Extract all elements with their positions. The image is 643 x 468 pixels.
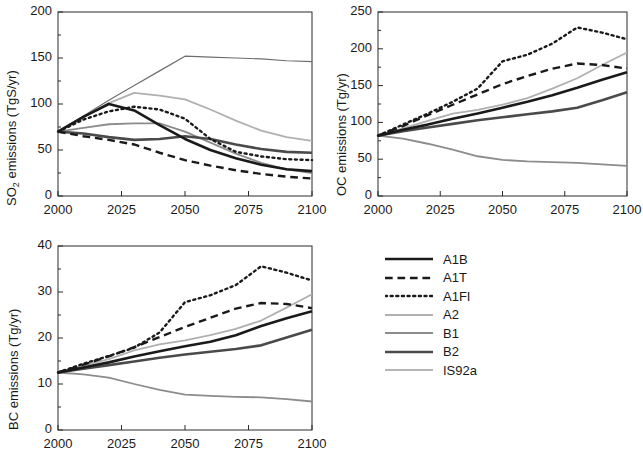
oc-ytick-label: 100 [334, 113, 372, 128]
oc-ytick-label: 0 [334, 187, 372, 202]
so2-xtick-label: 2050 [155, 202, 215, 217]
legend-item-a1fi: A1FI [385, 287, 470, 305]
legend-label-b2: B2 [443, 344, 459, 359]
oc-ytick-label: 200 [334, 40, 372, 55]
oc-xtick-label: 2000 [348, 202, 408, 217]
panel-so2-emissions: SO2 emissions (TgS/yr) 05010015020020002… [0, 0, 330, 234]
bc-xtick-label: 2100 [282, 436, 342, 451]
so2-y-axis-title: SO2 emissions (TgS/yr) [4, 70, 19, 206]
bc-xtick-label: 2000 [28, 436, 88, 451]
oc-xtick-label: 2075 [535, 202, 595, 217]
bc-xtick-label: 2050 [155, 436, 215, 451]
so2-ytick-label: 200 [14, 3, 52, 18]
legend-item-b1: B1 [385, 324, 459, 342]
legend-swatch-b2-icon [385, 345, 433, 359]
legend-label-a1fi: A1FI [443, 289, 470, 304]
legend-swatch-a1fi-icon [385, 289, 433, 303]
so2-xtick-label: 2025 [92, 202, 152, 217]
legend-swatch-a1b-icon [385, 252, 433, 266]
legend-item-is92a: IS92a [385, 361, 477, 379]
legend-label-b1: B1 [443, 326, 459, 341]
bc-y-axis-title: BC emissions (Tg/yr) [6, 309, 21, 430]
so2-ytick-label: 150 [14, 49, 52, 64]
oc-plot-area [330, 0, 643, 234]
bc-ytick-label: 10 [14, 375, 52, 390]
legend-item-a2: A2 [385, 306, 459, 324]
so2-y-axis-title-text: SO2 emissions (TgS/yr) [4, 70, 19, 206]
legend-item-a1b: A1B [385, 250, 468, 268]
oc-xtick-label: 2025 [410, 202, 470, 217]
legend-label-is92a: IS92a [443, 363, 477, 378]
oc-y-axis-title: OC emissions (Tg/yr) [334, 73, 349, 196]
oc-xtick-label: 2100 [597, 202, 643, 217]
bc-xtick-label: 2025 [92, 436, 152, 451]
so2-xtick-label: 2000 [28, 202, 88, 217]
oc-ytick-label: 150 [334, 77, 372, 92]
so2-ytick-label: 0 [14, 187, 52, 202]
legend-swatch-b1-icon [385, 326, 433, 340]
bc-ytick-label: 40 [14, 237, 52, 252]
bc-ytick-label: 0 [14, 421, 52, 436]
legend-swatch-is92a-icon [385, 363, 433, 377]
legend-swatch-a1t-icon [385, 271, 433, 285]
panel-bc-emissions: BC emissions (Tg/yr) 0102030402000202520… [0, 234, 330, 468]
bc-y-axis-title-text: BC emissions (Tg/yr) [6, 309, 21, 430]
oc-ytick-label: 50 [334, 150, 372, 165]
panel-oc-emissions: OC emissions (Tg/yr) 0501001502002502000… [330, 0, 643, 234]
bc-xtick-label: 2075 [219, 436, 279, 451]
so2-ytick-label: 50 [14, 141, 52, 156]
legend-label-a1b: A1B [443, 252, 468, 267]
bc-ytick-label: 30 [14, 283, 52, 298]
oc-xtick-label: 2050 [473, 202, 533, 217]
legend-label-a1t: A1T [443, 270, 467, 285]
legend: A1BA1TA1FIA2B1B2IS92a [385, 250, 643, 390]
so2-xtick-label: 2075 [219, 202, 279, 217]
oc-y-axis-title-text: OC emissions (Tg/yr) [334, 73, 349, 196]
so2-ytick-label: 100 [14, 95, 52, 110]
emissions-scenarios-figure: SO2 emissions (TgS/yr) 05010015020020002… [0, 0, 643, 468]
bc-ytick-label: 20 [14, 329, 52, 344]
legend-item-a1t: A1T [385, 269, 467, 287]
legend-label-a2: A2 [443, 307, 459, 322]
legend-swatch-a2-icon [385, 308, 433, 322]
legend-item-b2: B2 [385, 343, 459, 361]
oc-ytick-label: 250 [334, 3, 372, 18]
